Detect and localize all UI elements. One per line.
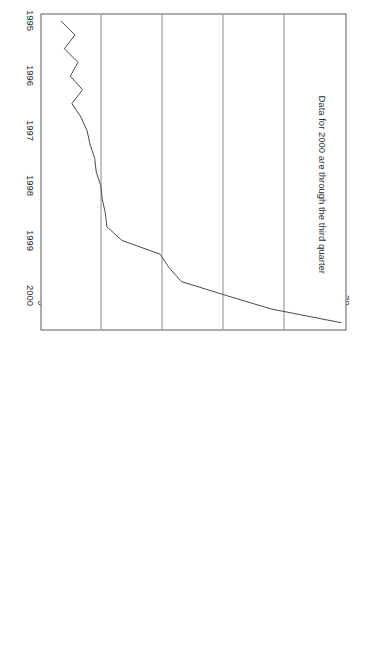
chart-annotation: Data for 2000 are through the third quar… xyxy=(316,95,327,274)
x-tick-label: 1999 xyxy=(24,220,34,260)
plot-area xyxy=(40,13,346,330)
x-tick-label: 2000 xyxy=(24,275,34,315)
x-tick-label: 1996 xyxy=(24,55,34,95)
x-tick-label: 1998 xyxy=(24,165,34,205)
series-line-chart xyxy=(41,14,345,329)
x-tick-label: 1995 xyxy=(24,0,34,40)
x-tick-label: 1997 xyxy=(24,110,34,150)
series-polyline xyxy=(61,21,341,322)
chart-figure: 20 16 12 8 4 0 Billions of dollars quart… xyxy=(0,0,368,645)
rotated-figure-wrapper: 20 16 12 8 4 0 Billions of dollars quart… xyxy=(0,0,368,645)
